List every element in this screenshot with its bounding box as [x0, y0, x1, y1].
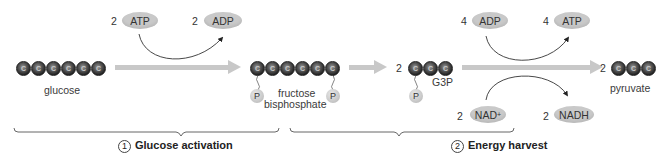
- reaction-arrow-head: [228, 60, 241, 74]
- stage-1-bracket: [14, 128, 279, 136]
- stage-2-label: 2Energy harvest: [451, 139, 547, 153]
- carbon-atom: C: [611, 61, 626, 76]
- stage-2-number: 2: [451, 140, 464, 153]
- glucose-carbon-chain: C C C C C C: [16, 61, 106, 76]
- adp-in-coef: 4: [461, 15, 467, 27]
- nadh-out-coef: 2: [543, 110, 549, 122]
- carbon-atom: C: [46, 61, 61, 76]
- atp-in-coef: 2: [111, 15, 117, 27]
- carbon-atom: C: [91, 61, 106, 76]
- carbon-atom: C: [408, 61, 423, 76]
- adp-in-pill: ADP: [472, 12, 508, 29]
- stage-2-text: Energy harvest: [468, 139, 547, 151]
- reaction-arrow-shaft: [462, 65, 590, 70]
- nad-in-pill: NAD+: [470, 106, 506, 123]
- nad-charge: +: [497, 111, 501, 118]
- nad-in-coef: 2: [457, 110, 463, 122]
- carbon-atom: C: [438, 61, 453, 76]
- stage-1-text: Glucose activation: [135, 139, 233, 151]
- g3p-carbon-chain: C C C: [408, 61, 453, 76]
- stage-2-bracket: [290, 128, 514, 136]
- carbon-atom: C: [626, 61, 641, 76]
- phosphate-tether: [415, 75, 418, 90]
- carbon-atom: C: [325, 61, 340, 76]
- g3p-label: G3P: [432, 76, 453, 88]
- phosphate-group: P: [409, 89, 423, 103]
- pyruvate-coef: 2: [600, 62, 606, 74]
- carbon-atom: C: [641, 61, 656, 76]
- reaction-arrow-head: [374, 60, 387, 74]
- nadh-out-pill: NADH: [554, 106, 594, 123]
- adp-out-label: ADP: [212, 15, 234, 27]
- carbon-atom: C: [16, 61, 31, 76]
- atp-to-adp-curve: [139, 34, 222, 59]
- carbon-atom: C: [280, 61, 295, 76]
- atp-out-label: ATP: [562, 15, 582, 27]
- stage-1-number: 1: [118, 140, 131, 153]
- atp-in-pill: ATP: [122, 12, 158, 29]
- pyruvate-carbon-chain: C C C: [611, 61, 656, 76]
- stage-1-label: 1Glucose activation: [118, 139, 233, 153]
- carbon-atom: C: [310, 61, 325, 76]
- atp-in-label: ATP: [130, 15, 150, 27]
- atp-out-pill: ATP: [554, 12, 590, 29]
- nad-in-label: NAD: [475, 109, 497, 121]
- phosphate-tether: [332, 75, 335, 90]
- carbon-atom: C: [423, 61, 438, 76]
- adp-out-pill: ADP: [204, 12, 242, 29]
- fructose-bisphosphate-carbon-chain: C C C C C C: [250, 61, 340, 76]
- adp-to-atp-curve: [486, 36, 568, 60]
- atp-out-coef: 4: [543, 15, 549, 27]
- adp-out-coef: 2: [192, 15, 198, 27]
- adp-in-label: ADP: [479, 15, 501, 27]
- reaction-arrow-shaft: [115, 65, 228, 70]
- carbon-atom: C: [61, 61, 76, 76]
- nad-to-nadh-curve: [486, 76, 567, 100]
- pyruvate-label: pyruvate: [610, 82, 650, 94]
- nadh-out-label: NADH: [559, 109, 589, 121]
- carbon-atom: C: [250, 61, 265, 76]
- carbon-atom: C: [76, 61, 91, 76]
- glucose-label: glucose: [44, 84, 80, 96]
- carbon-atom: C: [31, 61, 46, 76]
- carbon-atom: C: [295, 61, 310, 76]
- g3p-coef: 2: [396, 62, 402, 74]
- phosphate-group: P: [250, 89, 264, 103]
- carbon-atom: C: [265, 61, 280, 76]
- phosphate-group: P: [326, 89, 340, 103]
- bisphosphate-label: bisphosphate: [264, 98, 326, 110]
- phosphate-tether: [257, 75, 260, 90]
- reaction-arrow-shaft: [349, 65, 374, 70]
